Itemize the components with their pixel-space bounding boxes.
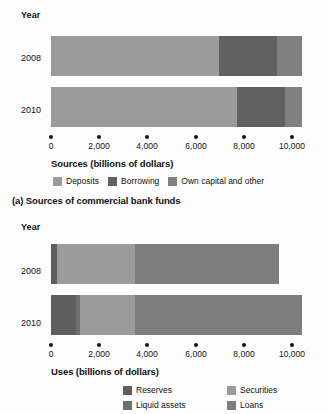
x-tick-dot xyxy=(290,135,294,139)
bar-segment-reserves-2010 xyxy=(51,295,76,335)
legend-item-securities: Securities xyxy=(227,385,277,395)
category-label-2008-b: 2008 xyxy=(21,266,41,276)
bar-segment-own-capital-2008 xyxy=(277,36,302,76)
year-axis-header-a: Year xyxy=(21,10,40,20)
x-tick-label: 10,000 xyxy=(279,141,305,151)
bar-segment-borrowing-2008 xyxy=(219,36,277,76)
legend-swatch-icon xyxy=(227,386,236,395)
x-tick-dot xyxy=(49,343,53,347)
legend-label: Securities xyxy=(240,385,277,395)
legend-label: Reserves xyxy=(136,385,172,395)
category-label-2008-a: 2008 xyxy=(21,53,41,63)
plot-area-uses xyxy=(51,214,302,354)
x-tick-label: 6,000 xyxy=(185,141,206,151)
bar-segment-securities-2008 xyxy=(57,244,135,284)
legend-item-liquid-assets: Liquid assets xyxy=(123,400,227,410)
panel-sources: Year 2008 2010 0 2,000 4,000 6,000 8,00 xyxy=(0,0,328,210)
bar-segment-deposits-2008 xyxy=(51,36,219,76)
x-axis-title-uses: Uses (billions of dollars) xyxy=(51,366,159,377)
x-tick-label: 0 xyxy=(49,141,54,151)
legend-label: Deposits xyxy=(66,176,99,186)
legend-label: Own capital and other xyxy=(181,176,264,186)
x-axis-title-sources: Sources (billions of dollars) xyxy=(51,158,173,169)
legend-item-reserves: Reserves xyxy=(123,385,227,395)
x-tick-label: 4,000 xyxy=(136,349,157,359)
bar-2008-sources xyxy=(51,36,302,76)
x-tick-label: 0 xyxy=(49,349,54,359)
legend-item-own-capital: Own capital and other xyxy=(168,176,264,186)
panel-caption-a: (a) Sources of commercial bank funds xyxy=(12,195,181,206)
x-axis-uses: 0 2,000 4,000 6,000 8,000 10,000 xyxy=(51,343,302,363)
x-tick-dot xyxy=(97,343,101,347)
legend-swatch-icon xyxy=(53,177,62,186)
bar-2010-sources xyxy=(51,87,302,127)
legend-uses: Reserves Securities Liquid assets Loans xyxy=(123,385,277,410)
year-axis-header-b: Year xyxy=(21,222,40,232)
bar-segment-own-capital-2010 xyxy=(285,87,302,127)
x-tick-label: 4,000 xyxy=(136,141,157,151)
legend-sources: Deposits Borrowing Own capital and other xyxy=(53,176,273,186)
x-tick-dot xyxy=(145,135,149,139)
bar-segment-borrowing-2010 xyxy=(237,87,285,127)
legend-label: Liquid assets xyxy=(136,400,186,410)
x-axis-sources: 0 2,000 4,000 6,000 8,000 10,000 xyxy=(51,135,302,155)
bar-segment-loans-2010 xyxy=(135,295,302,335)
x-tick-label: 8,000 xyxy=(233,141,254,151)
legend-swatch-icon xyxy=(227,401,236,410)
x-tick-label: 2,000 xyxy=(88,141,109,151)
legend-swatch-icon xyxy=(123,401,132,410)
panel-uses: Year 2008 2010 0 2,000 4,000 6,000 8,00 xyxy=(0,214,328,414)
legend-item-deposits: Deposits xyxy=(53,176,99,186)
bar-2010-uses xyxy=(51,295,302,335)
x-tick-dot xyxy=(145,343,149,347)
legend-swatch-icon xyxy=(108,177,117,186)
x-tick-dot xyxy=(290,343,294,347)
x-tick-dot xyxy=(242,135,246,139)
x-tick-dot xyxy=(242,343,246,347)
x-tick-dot xyxy=(194,343,198,347)
x-tick-label: 6,000 xyxy=(185,349,206,359)
bar-segment-deposits-2010 xyxy=(51,87,237,127)
bar-2008-uses xyxy=(51,244,302,284)
x-tick-label: 2,000 xyxy=(88,349,109,359)
figure-page: Year 2008 2010 0 2,000 4,000 6,000 8,00 xyxy=(0,0,328,414)
x-tick-dot xyxy=(194,135,198,139)
bar-segment-loans-2008 xyxy=(135,244,279,284)
category-label-2010-b: 2010 xyxy=(21,318,41,328)
x-tick-dot xyxy=(97,135,101,139)
x-tick-dot xyxy=(49,135,53,139)
bar-segment-securities-2010 xyxy=(80,295,135,335)
legend-item-loans: Loans xyxy=(227,400,277,410)
category-label-2010-a: 2010 xyxy=(21,105,41,115)
plot-area-sources xyxy=(51,0,302,140)
legend-swatch-icon xyxy=(123,386,132,395)
x-tick-label: 10,000 xyxy=(279,349,305,359)
x-tick-label: 8,000 xyxy=(233,349,254,359)
legend-label: Loans xyxy=(240,400,263,410)
legend-label: Borrowing xyxy=(121,176,159,186)
legend-item-borrowing: Borrowing xyxy=(108,176,159,186)
legend-swatch-icon xyxy=(168,177,177,186)
